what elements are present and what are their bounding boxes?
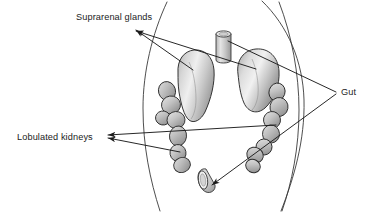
upper-gut-tube xyxy=(216,31,231,63)
leader-kidney-left xyxy=(108,138,180,152)
left-suprarenal-gland xyxy=(178,50,214,122)
lower-gut-tube xyxy=(197,169,215,193)
anatomical-figure: Suprarenal glands Lobulated kidneys Gut xyxy=(0,0,374,212)
label-lobulated-kidneys: Lobulated kidneys xyxy=(17,132,93,142)
leader-kidney-right xyxy=(108,125,276,135)
label-gut: Gut xyxy=(341,87,356,97)
leader-suprarenal-left xyxy=(136,30,193,70)
label-suprarenal-glands: Suprarenal glands xyxy=(76,12,153,22)
